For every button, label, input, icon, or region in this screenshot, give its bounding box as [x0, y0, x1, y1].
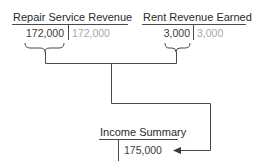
repair-service-revenue-debit: 172,000 [26, 27, 64, 39]
right-brace-icon [165, 43, 190, 52]
rent-revenue-earned-credit: 3,000 [197, 27, 223, 39]
merge-connector [46, 52, 177, 64]
income-summary-credit: 175,000 [124, 144, 162, 156]
rent-revenue-earned-title: Rent Revenue Earned [143, 11, 252, 23]
diagram-lines [0, 0, 260, 163]
rent-revenue-earned-debit: 3,000 [164, 27, 190, 39]
income-summary-title: Income Summary [100, 126, 186, 138]
left-brace-icon [25, 43, 64, 52]
arrow-left-icon [173, 147, 181, 154]
repair-service-revenue-title: Repair Service Revenue [13, 11, 132, 23]
repair-service-revenue-credit: 172,000 [72, 27, 110, 39]
